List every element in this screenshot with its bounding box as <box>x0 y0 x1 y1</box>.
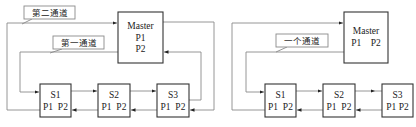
slave-ports: P1 P2 <box>161 102 186 112</box>
channel-label: 一个通道 <box>284 36 320 46</box>
slave-ports: P1 P2 <box>327 102 352 112</box>
slave-name: S2 <box>334 90 344 100</box>
slave-node-s1: S1 P1 P2 <box>265 84 296 117</box>
slave-node-s1: S1 P1 P2 <box>40 84 71 117</box>
two-channel-diagram: 第二通道 第一通道 Master P1 P2 S1 P1 P2 S2 P1 P2 <box>7 6 214 117</box>
slave-ports: P1 P2 <box>268 102 293 112</box>
channel-2-label: 第二通道 <box>32 8 68 18</box>
network-topology-figure: 第二通道 第一通道 Master P1 P2 S1 P1 P2 S2 P1 P2 <box>0 0 416 127</box>
channel-1-callout: 第一通道 <box>50 36 104 53</box>
slave-node-s2: S2 P1 P2 <box>323 84 355 117</box>
channel-2-callout: 第二通道 <box>22 6 75 24</box>
channel-1-label: 第一通道 <box>61 38 97 48</box>
one-channel-diagram: 一个通道 Master P1 P2 S1 P1 P2 S2 P1 P2 S3 P… <box>232 12 413 117</box>
slave-node-s3: S3 P1 P2 <box>382 84 413 117</box>
loopback-s3 <box>356 91 385 110</box>
master-port-p1: P1 <box>135 33 145 43</box>
master-port-p2: P2 <box>135 44 145 54</box>
slave-node-s2: S2 P1 P2 <box>98 84 130 117</box>
master-title: Master <box>353 26 380 36</box>
slave-name: S1 <box>275 90 285 100</box>
master-node: Master P1 P2 <box>118 12 163 63</box>
slave-name: S2 <box>109 90 119 100</box>
slave-node-s3: S3 P1 P2 <box>157 84 189 117</box>
slave-ports: P1 P2 <box>386 102 409 112</box>
master-node: Master P1 P2 <box>344 12 388 63</box>
master-title: Master <box>127 21 154 31</box>
slave-name: S3 <box>392 90 402 100</box>
master-ports: P1 P2 <box>351 38 381 48</box>
slave-name: S3 <box>168 90 178 100</box>
slave-ports: P1 P2 <box>102 102 127 112</box>
slave-name: S1 <box>50 90 60 100</box>
channel-callout: 一个通道 <box>276 34 328 52</box>
slave-ports: P1 P2 <box>43 102 68 112</box>
